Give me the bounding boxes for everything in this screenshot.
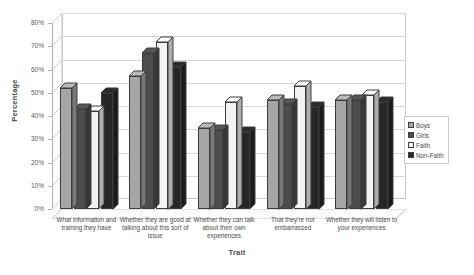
legend-swatch-icon [408, 122, 414, 128]
bar-side-face [361, 95, 366, 204]
bar-side-face [388, 97, 393, 204]
bar-side-face [223, 125, 228, 204]
bar-front-face [335, 100, 347, 209]
x-axis-category-label: Whether they are good at talking about t… [119, 216, 191, 241]
gridline-connector [52, 60, 62, 70]
x-axis-category-label: That they're not embarrassed [257, 216, 329, 232]
bar-side-face [292, 99, 297, 204]
bar-side-face [306, 81, 311, 204]
x-axis-category-label: What information and training they have [50, 216, 122, 232]
y-axis-line [52, 23, 53, 209]
legend-label: Girls [416, 132, 429, 139]
bar-side-face [181, 62, 186, 204]
y-axis-tick-label: 60% [18, 66, 44, 73]
legend-swatch-icon [408, 152, 414, 158]
x-axis-title: Trait [0, 248, 474, 257]
x-axis-category-label: Whether they will listen to your experie… [326, 216, 398, 232]
legend-item: Boys [408, 120, 444, 130]
legend-label: Non-Faith [416, 152, 444, 159]
y-axis-tick-label: 20% [18, 159, 44, 166]
legend-swatch-icon [408, 142, 414, 148]
bar-side-face [72, 83, 77, 204]
y-axis-tick-label: 30% [18, 135, 44, 142]
bar-side-face [168, 37, 173, 204]
legend-item: Girls [408, 130, 444, 140]
legend-item: Non-Faith [408, 150, 444, 160]
gridline [62, 60, 406, 61]
bar [335, 100, 347, 209]
legend: BoysGirlsFaithNon-Faith [404, 116, 449, 164]
legend-label: Boys [416, 122, 430, 129]
bar-side-face [279, 95, 284, 204]
bar-front-face [60, 88, 72, 209]
bar-side-face [210, 123, 215, 204]
gridline [62, 36, 406, 37]
bar-side-face [250, 127, 255, 204]
bar-side-face [141, 71, 146, 204]
y-axis-title: Percentage [10, 61, 19, 141]
bar-side-face [86, 104, 91, 204]
bar-side-face [113, 88, 118, 204]
legend-swatch-icon [408, 132, 414, 138]
x-axis-category-label: Whether they can talk about their own ex… [188, 216, 260, 241]
bar-side-face [237, 97, 242, 204]
bar-side-face [374, 90, 379, 204]
bar-front-face [267, 100, 279, 209]
gridline [62, 83, 406, 84]
legend-label: Faith [416, 142, 430, 149]
y-axis-tick-label: 50% [18, 89, 44, 96]
bar-side-face [154, 48, 159, 204]
y-axis-tick-label: 40% [18, 112, 44, 119]
gridline-connector [52, 13, 62, 23]
bar-front-face [129, 76, 141, 209]
bar [198, 128, 210, 209]
bar [267, 100, 279, 209]
bar-side-face [319, 102, 324, 204]
y-axis-tick-label: 10% [18, 182, 44, 189]
plot-area [52, 23, 396, 209]
gridline-connector [52, 36, 62, 46]
y-axis-tick-label: 0% [18, 205, 44, 212]
bar-side-face [99, 106, 104, 204]
legend-item: Faith [408, 140, 444, 150]
bar-front-face [198, 128, 210, 209]
bar-side-face [347, 95, 352, 204]
bar [60, 88, 72, 209]
bar-chart: Percentage 0%10%20%30%40%50%60%70%80% Wh… [0, 0, 474, 275]
y-axis-tick-label: 80% [18, 19, 44, 26]
bar [129, 76, 141, 209]
y-axis-tick-label: 70% [18, 42, 44, 49]
gridline [62, 13, 406, 14]
